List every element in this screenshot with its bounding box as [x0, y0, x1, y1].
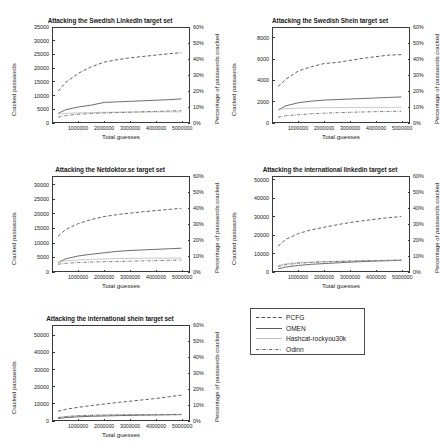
y-tick-mark-left: [52, 54, 55, 55]
y-tick-mark-right: [188, 272, 191, 273]
y-tick-label-left: 15000: [16, 225, 49, 231]
y-tick-mark-right: [188, 389, 191, 390]
legend-line-swatch-omen: [255, 324, 283, 333]
chart-panel-netdoktor-se: Attacking the Netdoktor.se target set Cr…: [0, 149, 220, 298]
y-tick-label-left: 0: [16, 269, 49, 275]
y-tick-mark-left: [52, 199, 55, 200]
legend-item[interactable]: Hashcat-rockyou30k: [255, 333, 346, 344]
y-tick-label-right: 50%: [193, 338, 213, 344]
y-tick-label-right: 60%: [413, 173, 433, 179]
y-tick-mark-right: [188, 192, 191, 193]
y-tick-label-left: 10000: [16, 401, 49, 407]
x-tick-mark: [350, 121, 351, 124]
plot-area: [52, 27, 190, 123]
x-axis-label: Total guesses: [272, 282, 410, 289]
y-tick-label-right: 30%: [413, 221, 433, 227]
y-tick-mark-left: [52, 228, 55, 229]
x-tick-label: 2000000: [94, 274, 114, 280]
y-tick-mark-right: [408, 272, 411, 273]
y-tick-label-left: 30000: [16, 38, 49, 44]
x-tick-mark: [104, 419, 105, 422]
y-tick-mark-left: [52, 81, 55, 82]
legend-item[interactable]: PCFG: [255, 312, 304, 323]
plot-area: [52, 176, 190, 272]
y-tick-mark-left: [52, 27, 55, 28]
x-axis-label: Total guesses: [52, 282, 190, 289]
chart-panel-international-shein: Attacking the international shein target…: [0, 298, 220, 447]
x-tick-mark: [298, 121, 299, 124]
chart-panel-swedish-linkedin: Attacking the Swedish LinkedIn target se…: [0, 0, 220, 149]
x-tick-label: 1000000: [68, 274, 88, 280]
legend-line-swatch-pcfg: [255, 313, 283, 322]
y-tick-label-right: 0%: [193, 418, 213, 424]
chart-title: Attacking the international shein target…: [0, 315, 220, 322]
y-tick-mark-left: [52, 184, 55, 185]
y-tick-label-left: 10000: [236, 251, 269, 257]
legend-line-swatch-odinn: [255, 345, 283, 354]
series-line-hashcat-rockyou30k: [58, 112, 181, 114]
y-tick-mark-left: [52, 123, 55, 124]
x-tick-label: 3000000: [120, 423, 140, 429]
y-tick-label-left: 6000: [236, 56, 269, 62]
x-tick-label: 4000000: [146, 125, 166, 131]
y-tick-label-right: 40%: [193, 56, 213, 62]
legend-label: OMEN: [286, 325, 306, 332]
y-tick-label-right: 20%: [413, 237, 433, 243]
x-tick-mark: [324, 270, 325, 273]
legend-box: PCFGOMENHashcat-rockyou30kOdinn: [250, 308, 365, 355]
x-tick-label: 2000000: [94, 125, 114, 131]
y-tick-label-right: 40%: [193, 354, 213, 360]
x-tick-label: 1000000: [288, 125, 308, 131]
y-tick-label-right: 50%: [193, 189, 213, 195]
y-tick-label-left: 25000: [16, 51, 49, 57]
x-axis-label: Total guesses: [52, 133, 190, 140]
y-tick-mark-left: [52, 68, 55, 69]
y-tick-mark-right: [188, 240, 191, 241]
x-tick-mark: [78, 121, 79, 124]
y-tick-mark-left: [52, 386, 55, 387]
x-tick-label: 5000000: [392, 125, 412, 131]
y-tick-mark-right: [188, 224, 191, 225]
y-tick-label-right: 60%: [193, 322, 213, 328]
y-tick-label-left: 30000: [16, 367, 49, 373]
y-tick-mark-left: [272, 198, 275, 199]
legend-item[interactable]: Odinn: [255, 344, 304, 355]
y-tick-mark-right: [188, 59, 191, 60]
x-tick-label: 3000000: [340, 274, 360, 280]
y-tick-mark-right: [408, 240, 411, 241]
y-tick-label-right: 10%: [193, 104, 213, 110]
y-tick-mark-right: [188, 208, 191, 209]
y-tick-mark-right: [188, 341, 191, 342]
y-tick-label-right: 10%: [193, 402, 213, 408]
y-tick-mark-right: [408, 43, 411, 44]
y-tick-mark-right: [188, 256, 191, 257]
y-tick-mark-right: [188, 123, 191, 124]
y-tick-label-right: 40%: [413, 205, 433, 211]
y-tick-mark-left: [52, 109, 55, 110]
y-tick-mark-right: [408, 123, 411, 124]
y-tick-mark-right: [408, 107, 411, 108]
x-tick-mark: [130, 270, 131, 273]
y-tick-label-left: 30000: [16, 182, 49, 188]
series-line-odinn: [58, 260, 181, 264]
x-tick-label: 5000000: [392, 274, 412, 280]
y-tick-label-right: 60%: [193, 173, 213, 179]
y-tick-label-left: 20000: [236, 232, 269, 238]
figure-grid: Attacking the Swedish LinkedIn target se…: [0, 0, 440, 447]
y-tick-label-right: 50%: [413, 189, 433, 195]
x-tick-mark: [78, 419, 79, 422]
legend-item[interactable]: OMEN: [255, 323, 306, 334]
y-tick-mark-right: [188, 325, 191, 326]
x-tick-label: 5000000: [172, 423, 192, 429]
x-tick-mark: [402, 270, 403, 273]
y-tick-mark-right: [408, 256, 411, 257]
y-tick-label-right: 30%: [413, 72, 433, 78]
chart-panel-international-linkedin: Attacking the international linkedin tar…: [220, 149, 440, 298]
chart-title: Attacking the Swedish Shein target set: [220, 17, 440, 24]
y-tick-label-left: 4000: [236, 77, 269, 83]
y-tick-mark-right: [408, 27, 411, 28]
x-tick-label: 4000000: [366, 125, 386, 131]
y-tick-mark-left: [52, 335, 55, 336]
x-tick-label: 4000000: [366, 274, 386, 280]
y-tick-mark-left: [52, 369, 55, 370]
